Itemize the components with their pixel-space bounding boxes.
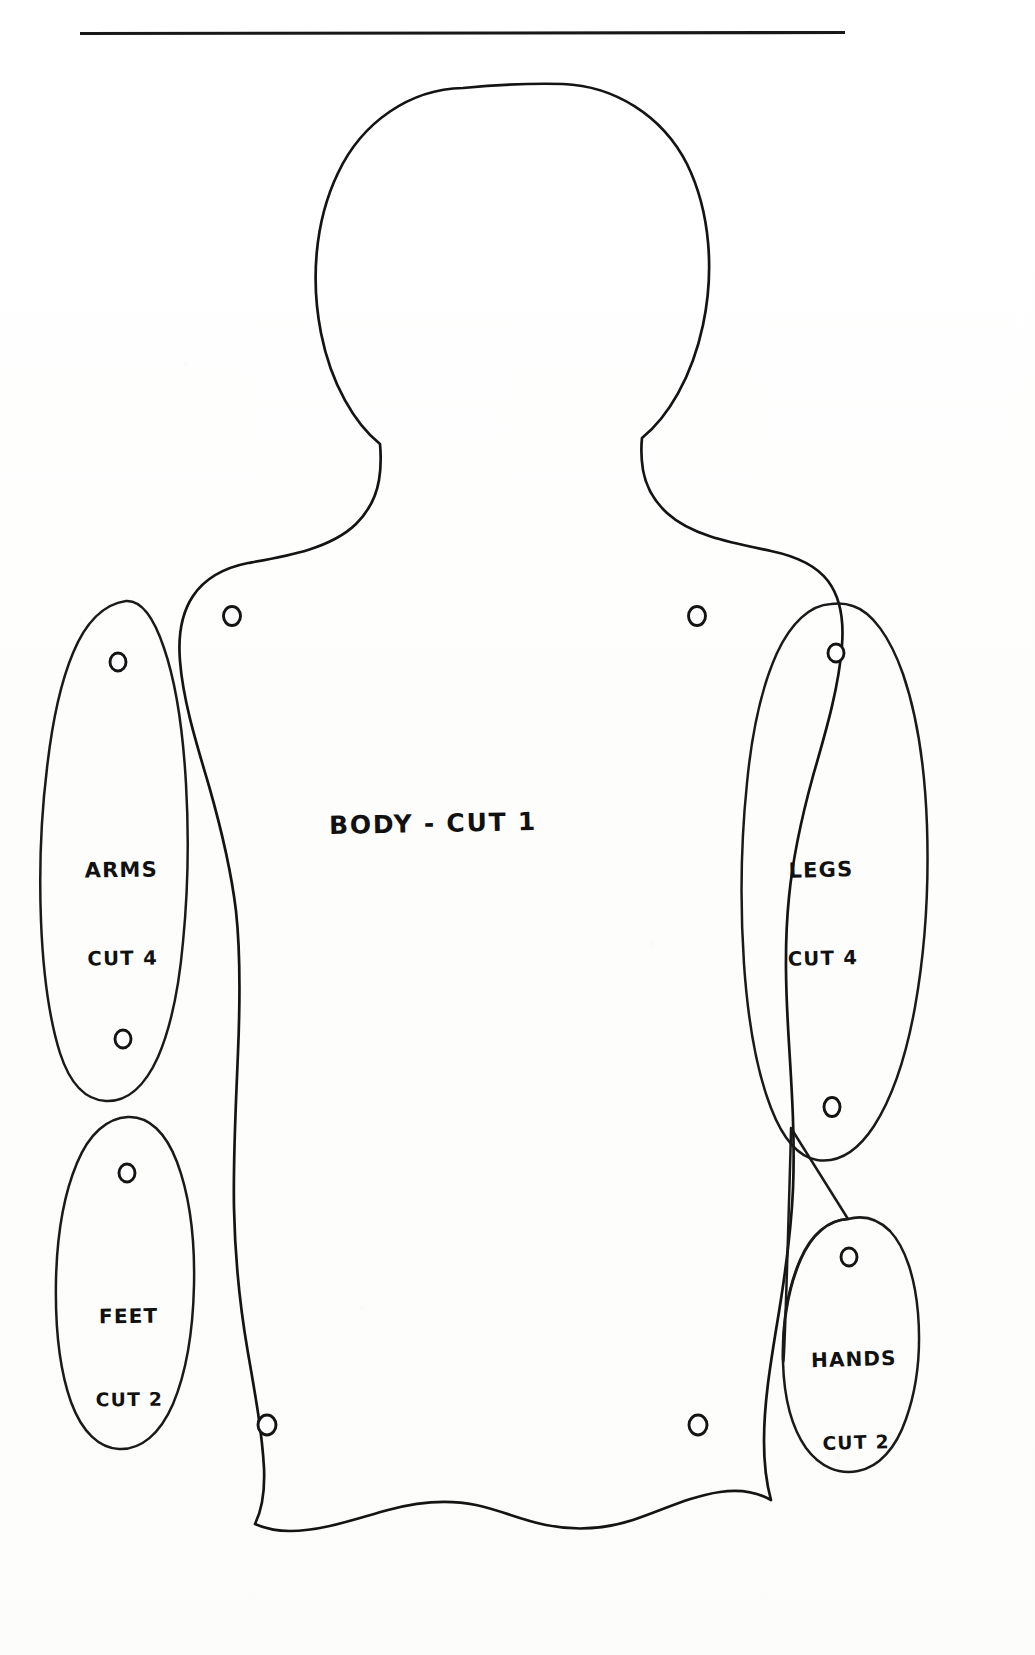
arms-hole-top [110, 653, 126, 671]
hands-hole [841, 1248, 857, 1266]
label-arms: Arms Cut 4 [46, 795, 198, 1034]
body-hole-left-shoulder [224, 607, 241, 626]
legs-hole-top [828, 644, 844, 662]
label-body-line1: Body - Cut 1 [268, 803, 599, 845]
body-hole-right-hip [689, 1415, 707, 1435]
label-hands-line2: Cut 2 [781, 1428, 932, 1459]
label-feet-line2: Cut 2 [58, 1386, 200, 1414]
label-legs-line1: Legs [747, 854, 896, 887]
label-feet-line1: Feet [57, 1301, 199, 1331]
pattern-sheet: .ink { fill: none; stroke: #141414; stro… [0, 0, 1035, 1655]
top-rule [80, 33, 845, 34]
legs-hole-bottom [824, 1098, 840, 1117]
label-legs: Legs Cut 4 [745, 794, 899, 1034]
body-hole-left-hip [258, 1415, 276, 1435]
label-hands: Hands Cut 2 [777, 1286, 933, 1515]
label-hands-line1: Hands [778, 1343, 929, 1376]
arms-hole-bottom [115, 1030, 131, 1048]
label-arms-line1: Arms [47, 854, 195, 886]
label-arms-line2: Cut 4 [48, 944, 196, 974]
label-feet: Feet Cut 2 [57, 1244, 201, 1471]
body-joint-holes [224, 607, 708, 1436]
body-hole-right-shoulder [689, 607, 706, 626]
feet-hole [119, 1164, 135, 1182]
label-legs-line2: Cut 4 [749, 943, 898, 974]
label-body: Body - Cut 1 [266, 732, 599, 916]
